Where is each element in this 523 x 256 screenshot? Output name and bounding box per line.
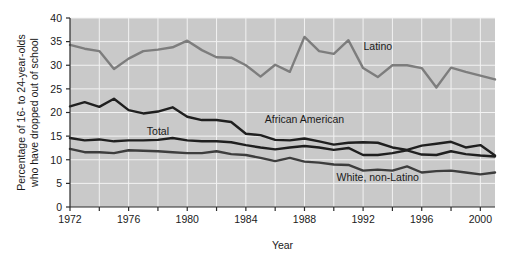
y-axis-tick-label: 15 <box>50 130 62 142</box>
y-axis-tick-labels: 0510152025303540 <box>50 12 62 213</box>
x-axis-tick-label: 1976 <box>117 213 141 225</box>
series-label-african-american: African American <box>265 113 345 125</box>
x-axis-tick-labels: 19721976198019841988199219962000 <box>58 213 492 225</box>
y-axis-tick-label: 5 <box>56 177 62 189</box>
series-label-white-non-latino: White, non-Latino <box>337 171 419 183</box>
y-axis-tick-label: 10 <box>50 154 62 166</box>
y-axis-tick-label: 30 <box>50 59 62 71</box>
x-axis-tick-label: 1996 <box>410 213 434 225</box>
y-axis-tick-label: 35 <box>50 35 62 47</box>
y-axis-title-line-1: Percentage of 16- to 24-year-olds <box>15 34 27 190</box>
x-axis-tick-label: 1992 <box>351 213 375 225</box>
x-axis-tick-label: 1984 <box>234 213 258 225</box>
y-axis-tick-label: 25 <box>50 83 62 95</box>
y-axis-title-line-2: who have dropped out of school <box>28 38 40 188</box>
series-label-total: Total <box>147 125 169 137</box>
x-axis-tick-label: 1988 <box>293 213 317 225</box>
dropout-rate-line-chart: 19721976198019841988199219962000 0510152… <box>0 0 523 256</box>
x-axis-tick-label: 2000 <box>469 213 493 225</box>
y-axis-tick-label: 20 <box>50 106 62 118</box>
chart-figure: 19721976198019841988199219962000 0510152… <box>0 0 523 256</box>
x-axis-tick-label: 1980 <box>176 213 200 225</box>
series-label-latino: Latino <box>363 40 392 52</box>
y-axis-tick-label: 40 <box>50 12 62 24</box>
x-axis-title: Year <box>272 239 294 251</box>
x-axis-tick-label: 1972 <box>58 213 82 225</box>
y-axis-tick-label: 0 <box>56 201 62 213</box>
